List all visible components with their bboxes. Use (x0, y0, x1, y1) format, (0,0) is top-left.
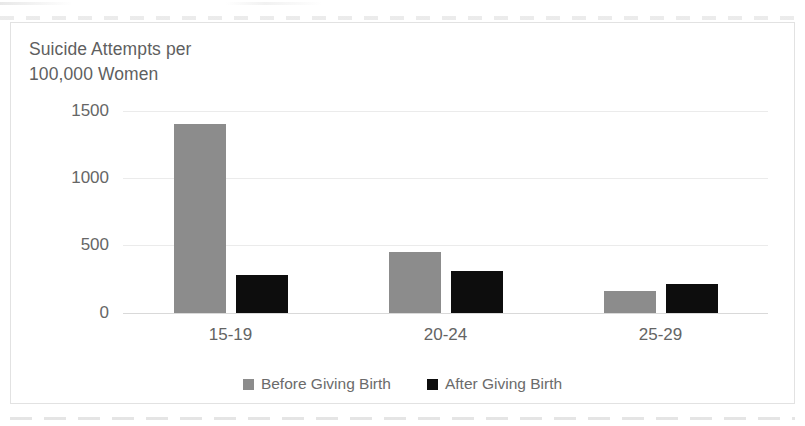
bars-25-29 (553, 111, 768, 313)
y-axis-tick-1500: 1500 (71, 101, 109, 121)
chart-legend: Before Giving Birth After Giving Birth (11, 375, 794, 393)
y-axis-tick-0: 0 (100, 303, 109, 323)
bar-before-20-24[interactable] (389, 252, 441, 313)
bar-group-15-19: 15-19 (123, 111, 338, 313)
legend-label-before: Before Giving Birth (261, 375, 391, 393)
bars-15-19 (123, 111, 338, 313)
y-axis-tick-500: 500 (81, 235, 109, 255)
bars-20-24 (338, 111, 553, 313)
chart-frame: Suicide Attempts per 100,000 Women 1500 … (10, 22, 795, 404)
bar-before-25-29[interactable] (604, 291, 656, 313)
x-axis-tick-20-24: 20-24 (338, 325, 553, 345)
legend-swatch-icon-after (427, 379, 438, 390)
bar-group-25-29: 25-29 (553, 111, 768, 313)
legend-item-after[interactable]: After Giving Birth (427, 375, 562, 393)
plot-area: 1500 1000 500 0 15-19 (123, 111, 768, 313)
scan-artifact-bottom (10, 417, 795, 420)
legend-item-before[interactable]: Before Giving Birth (243, 375, 391, 393)
x-axis-tick-25-29: 25-29 (553, 325, 768, 345)
x-axis-tick-15-19: 15-19 (123, 325, 338, 345)
axis-baseline-0 (123, 313, 768, 314)
scan-artifact-top (0, 2, 805, 5)
bar-groups: 15-19 20-24 25-29 (123, 111, 768, 313)
y-axis-tick-1000: 1000 (71, 168, 109, 188)
scan-artifact-row (0, 16, 805, 20)
legend-swatch-icon-before (243, 379, 254, 390)
chart-page: Suicide Attempts per 100,000 Women 1500 … (0, 0, 805, 426)
bar-after-25-29[interactable] (666, 284, 718, 313)
bar-before-15-19[interactable] (174, 124, 226, 313)
legend-label-after: After Giving Birth (445, 375, 562, 393)
bar-after-15-19[interactable] (236, 275, 288, 313)
chart-title: Suicide Attempts per 100,000 Women (29, 37, 369, 87)
bar-group-20-24: 20-24 (338, 111, 553, 313)
bar-after-20-24[interactable] (451, 271, 503, 313)
